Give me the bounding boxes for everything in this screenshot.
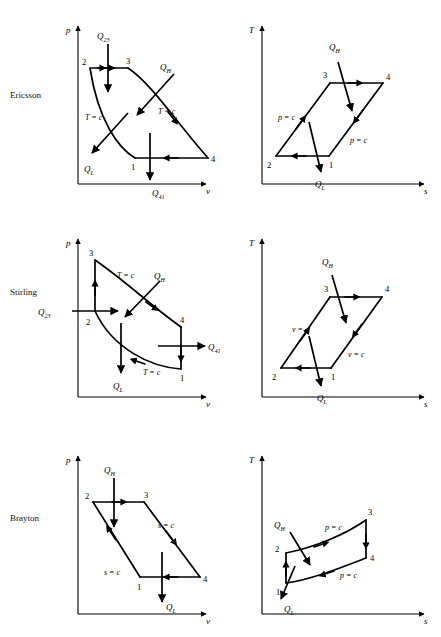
ericsson-pv-point-1: 1 <box>131 162 135 172</box>
stirling-ts-xaxis-label: s <box>424 399 428 409</box>
brayton-pv-point-2: 2 <box>85 491 89 501</box>
stirling-ts-qh-label: QH <box>322 257 334 269</box>
stirling-ts-arrow-4-1 <box>354 324 362 335</box>
brayton-pv-yaxis-label: p <box>65 455 71 465</box>
ericsson-pv-q23-label: Q23 <box>97 31 110 43</box>
brayton-ts-xaxis-label: s <box>424 616 428 626</box>
stirling-pv-process-3-4 <box>95 260 181 327</box>
ericsson-ts-point-1: 1 <box>329 160 333 170</box>
stirling-pv-proc-bottom: T = c <box>143 368 161 377</box>
brayton-pv-ql-label: QL <box>166 602 177 614</box>
ericsson-ts-proc-right: p = c <box>349 136 367 145</box>
stirling-pv-yaxis-label: p <box>65 238 71 248</box>
stirling-ts-ql-arrow <box>309 336 321 386</box>
stirling-ts-ql-label: QL <box>317 393 328 405</box>
stirling-ts-proc-right: v = c <box>348 350 365 359</box>
stirling-ts-point-1: 1 <box>331 372 335 382</box>
ericsson-pv-proc-left: T = c <box>85 113 103 122</box>
ericsson-ts-ql-arrow <box>309 122 321 172</box>
stirling-pv-process-1-2 <box>95 311 181 369</box>
ericsson-pv-point-2: 2 <box>82 57 86 67</box>
brayton-pv-point-4: 4 <box>203 574 208 584</box>
ericsson-ts-qh-label: QH <box>329 42 341 54</box>
stirling-pv-qh-label: QH <box>154 271 166 283</box>
stirling-ts-point-2: 2 <box>272 372 276 382</box>
figure-sheet: Ericsson Stirling Brayton p v <box>0 0 441 637</box>
ericsson-pv-q41-label: Q41 <box>152 188 165 200</box>
stirling-ts-point-4: 4 <box>385 284 390 294</box>
stirling-pv-point-2: 2 <box>86 317 90 327</box>
ericsson-pv-xaxis-label: v <box>206 186 210 196</box>
ericsson-pv-ql-label: QL <box>84 164 95 176</box>
brayton-ts-qh-label: QH <box>274 520 286 532</box>
ericsson-ts-proc-left: p = c <box>277 113 295 122</box>
brayton-ts-proc-top: p = c <box>324 523 342 532</box>
stirling-ts-proc-left: v = c <box>292 325 309 334</box>
brayton-pv-proc-right: s = c <box>158 521 175 530</box>
brayton-pv-qh-label: QH <box>104 465 116 477</box>
brayton-row: p v QH QL 2 3 1 4 s = c s = c T s <box>0 430 441 637</box>
ericsson-ts-point-3: 3 <box>323 70 327 80</box>
stirling-ts-yaxis-label: T <box>249 238 255 248</box>
brayton-ts-point-4: 4 <box>370 553 375 563</box>
ericsson-ts-arrow-2-3 <box>296 118 304 129</box>
brayton-ts-point-3: 3 <box>368 507 372 517</box>
ericsson-pv-proc-right: T = c <box>158 107 176 116</box>
ericsson-ts-yaxis-label: T <box>249 25 255 35</box>
ericsson-pv-yaxis-label: p <box>65 25 71 35</box>
ericsson-ts-qh-arrow <box>338 62 352 111</box>
brayton-pv-arrow-3-4 <box>166 531 175 543</box>
ericsson-ts-point-4: 4 <box>386 72 391 82</box>
brayton-ts-point-2: 2 <box>275 544 279 554</box>
stirling-ts-point-3: 3 <box>324 284 328 294</box>
brayton-ts-point-1: 1 <box>276 587 280 597</box>
brayton-ts-yaxis-label: T <box>249 455 255 465</box>
brayton-ts-proc-bottom: p = c <box>339 571 357 580</box>
stirling-pv-point-3: 3 <box>89 248 93 258</box>
stirling-pv-q41-label: Q41 <box>208 342 221 354</box>
ericsson-pv-point-3: 3 <box>126 56 130 66</box>
brayton-ts-ql-label: QL <box>284 604 295 616</box>
stirling-pv-point-1: 1 <box>180 373 184 383</box>
ericsson-ts-xaxis-label: s <box>424 186 428 196</box>
stirling-pv-arrow-1-2 <box>133 360 145 364</box>
ericsson-ts-point-2: 2 <box>267 160 271 170</box>
stirling-pv-q23-label: Q23 <box>38 307 51 319</box>
ericsson-pv-qh-label: QH <box>160 62 172 74</box>
brayton-pv-arrow-1-2 <box>108 528 116 540</box>
ericsson-pv-point-4: 4 <box>211 154 216 164</box>
brayton-pv-point-1: 1 <box>137 582 141 592</box>
stirling-row: p v Q23 QH QL Q41 3 2 4 1 T = c T = c <box>0 213 441 418</box>
stirling-ts-qh-arrow <box>332 275 346 323</box>
stirling-pv-ql-label: QL <box>113 381 124 393</box>
stirling-pv-xaxis-label: v <box>206 399 210 409</box>
ericsson-ts-ql-label: QL <box>315 179 326 191</box>
ericsson-ts-arrow-4-1 <box>355 110 363 121</box>
brayton-pv-proc-left: s = c <box>104 568 121 577</box>
brayton-pv-point-3: 3 <box>144 490 148 500</box>
stirling-pv-point-4: 4 <box>180 315 185 325</box>
ericsson-row: p v Q23 QH QL Q41 2 3 1 4 T = c T = c <box>0 0 441 205</box>
brayton-pv-xaxis-label: v <box>206 616 210 626</box>
stirling-pv-proc-top: T = c <box>117 271 135 280</box>
